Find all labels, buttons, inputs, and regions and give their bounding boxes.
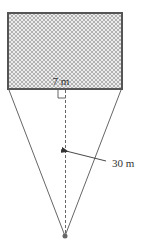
right-angle-marker [58, 90, 66, 98]
geometry-diagram: 7 m 30 m [0, 0, 143, 251]
distance-label: 30 m [112, 157, 135, 169]
distance-arrow [68, 152, 106, 162]
observer-point [63, 234, 68, 239]
width-label: 7 m [53, 75, 70, 87]
left-sight-line [9, 90, 65, 236]
